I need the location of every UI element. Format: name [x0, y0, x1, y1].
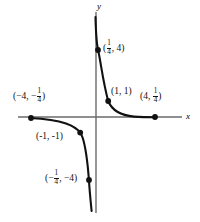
paren-close: ) [121, 43, 124, 53]
minus-sign: − [48, 173, 53, 183]
paren-close: ) [42, 91, 45, 101]
paren-close: ) [74, 173, 77, 183]
paren-close: ) [158, 91, 161, 101]
point-label-four-quarter: (4, 14) [140, 88, 161, 104]
point-neg-four-neg-quarter [28, 115, 34, 121]
point-label-quarter-four: (14, 4) [103, 40, 124, 56]
fraction-one-quarter: 14 [107, 40, 112, 56]
point-neg-quarter-neg-four [86, 177, 92, 183]
point-label-one-one: (1, 1) [111, 87, 132, 97]
comma-sep: , [148, 91, 153, 101]
point-one-one [105, 98, 111, 104]
point-label-neg-four-neg-quarter: (−4, −14) [13, 88, 45, 104]
x-axis-label: x [186, 112, 190, 121]
y-axis-label: y [97, 2, 101, 11]
point-neg-one-neg-one [77, 130, 83, 136]
fraction-one-quarter: 14 [37, 88, 42, 104]
hyperbola-graph-figure: y x (14, 4) (1, 1) (4, 14) (−4, −14) (-1… [0, 0, 200, 222]
graph-canvas [0, 0, 200, 222]
y-value: −4 [64, 173, 74, 183]
point-label-neg-one-neg-one: (-1, -1) [36, 132, 63, 142]
x-value: −4 [16, 91, 26, 101]
point-four-quarter [152, 114, 158, 120]
point-label-neg-quarter-neg-four: (−14, −4) [45, 170, 77, 186]
minus-sign: − [31, 91, 36, 101]
fraction-one-quarter: 14 [54, 170, 59, 186]
point-quarter-four [95, 47, 101, 53]
